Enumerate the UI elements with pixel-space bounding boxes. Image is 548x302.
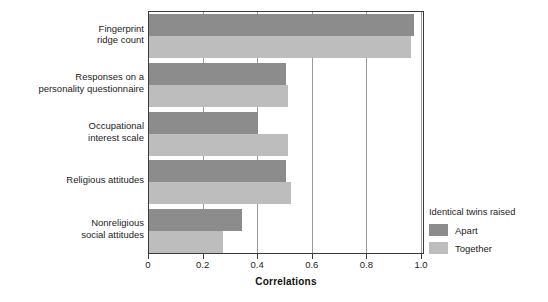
x-axis-tick-label: 0.2 — [196, 259, 209, 270]
bar — [149, 209, 242, 231]
gridline — [421, 12, 422, 253]
x-axis-tick-label: 0 — [145, 259, 150, 270]
y-axis-label: Responses on a personality questionnaire — [4, 71, 144, 94]
bar — [149, 36, 411, 58]
plot-area — [148, 11, 424, 254]
x-axis-tick-label: 1.0 — [414, 259, 427, 270]
bar-chart-figure: Fingerprint ridge countResponses on a pe… — [0, 0, 548, 302]
legend-item-together: Together — [429, 242, 548, 254]
bar — [149, 63, 286, 85]
x-axis-tick-label: 0.8 — [360, 259, 373, 270]
y-axis-label: Religious attitudes — [4, 174, 144, 186]
y-axis-label: Occupational interest scale — [4, 120, 144, 143]
legend-title: Identical twins raised — [429, 207, 548, 217]
legend-swatch-together-icon — [429, 242, 448, 254]
legend-label-together: Together — [455, 243, 492, 254]
bar — [149, 231, 223, 253]
x-axis-tick-label: 0.4 — [251, 259, 264, 270]
legend-item-apart: Apart — [429, 224, 548, 236]
bar — [149, 160, 286, 182]
legend-swatch-apart-icon — [429, 224, 448, 236]
y-axis-label: Fingerprint ridge count — [4, 23, 144, 46]
legend-label-apart: Apart — [455, 225, 478, 236]
bar — [149, 134, 288, 156]
x-axis-title: Correlations — [148, 276, 424, 287]
bar — [149, 112, 258, 134]
chart-legend: Identical twins raised Apart Together — [429, 207, 548, 260]
x-axis-tick-label: 0.6 — [305, 259, 318, 270]
y-axis-label: Nonreligious social attitudes — [4, 217, 144, 240]
y-axis-labels: Fingerprint ridge countResponses on a pe… — [0, 0, 144, 302]
bar — [149, 182, 291, 204]
bar — [149, 85, 288, 107]
bar — [149, 14, 414, 36]
